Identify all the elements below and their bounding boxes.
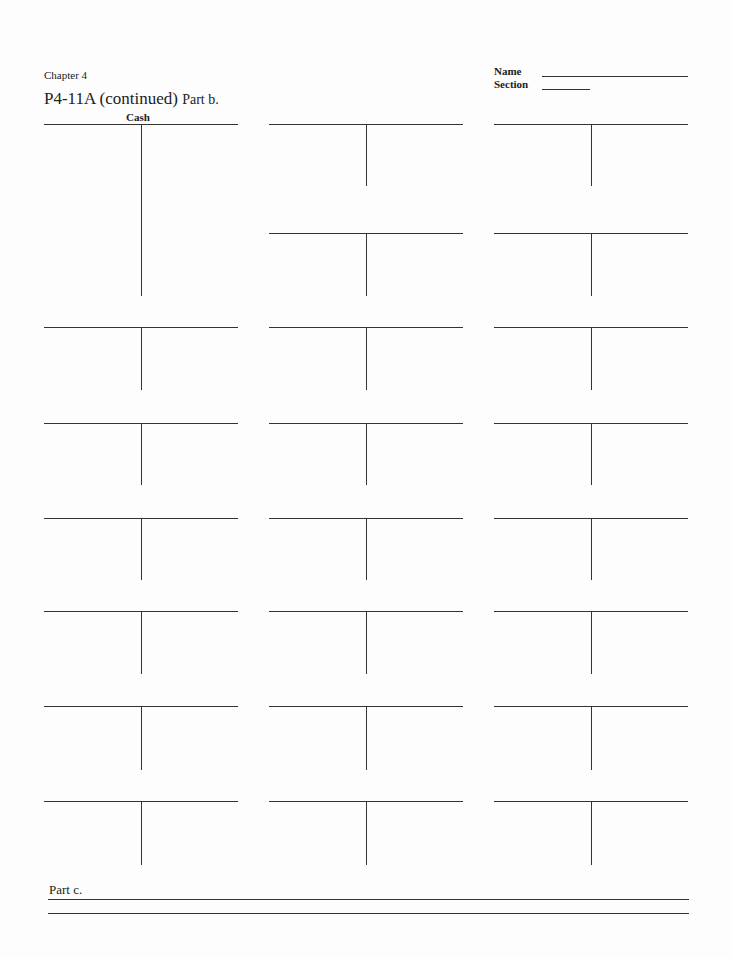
t-account-divider-line [366,423,367,485]
t-account[interactable] [494,327,688,390]
t-account-divider-line [591,518,592,580]
problem-title-part: Part b. [182,92,219,107]
name-label: Name [494,65,522,77]
t-account-divider-line [141,518,142,580]
t-account-divider-line [591,327,592,390]
t-account[interactable] [44,327,238,390]
t-account-divider-line [591,706,592,770]
t-account[interactable] [494,518,688,580]
t-account[interactable] [494,233,688,296]
t-account-divider-line [141,327,142,390]
t-account[interactable] [494,124,688,186]
t-account-divider-line [141,423,142,485]
t-account[interactable] [269,611,463,674]
t-account[interactable] [269,801,463,865]
t-account-divider-line [141,124,142,296]
t-account-divider-line [591,124,592,186]
t-account-divider-line [366,706,367,770]
problem-title-main: P4-11A (continued) [44,89,178,108]
t-account-divider-line [366,233,367,296]
t-account[interactable] [44,706,238,770]
t-account-divider-line [141,706,142,770]
t-account[interactable] [269,518,463,580]
t-account-divider-line [366,124,367,186]
t-account-divider-line [141,611,142,674]
part-c-answer-line-1[interactable] [48,899,689,900]
t-account[interactable] [44,611,238,674]
t-account[interactable] [44,801,238,865]
problem-title: P4-11A (continued) Part b. [44,89,219,109]
t-account-divider-line [591,801,592,865]
t-account-divider-line [591,611,592,674]
t-account[interactable] [269,124,463,186]
t-account[interactable] [269,233,463,296]
t-account[interactable] [269,706,463,770]
t-account[interactable] [44,518,238,580]
t-account-divider-line [141,801,142,865]
t-account-divider-line [366,518,367,580]
part-c-label: Part c. [49,882,82,898]
chapter-label: Chapter 4 [44,69,87,81]
t-account[interactable] [44,423,238,485]
t-account-divider-line [591,423,592,485]
t-account-divider-line [366,611,367,674]
t-account[interactable] [494,706,688,770]
section-label: Section [494,78,528,90]
t-account[interactable] [494,423,688,485]
t-account[interactable] [44,124,238,296]
t-account[interactable] [494,611,688,674]
t-account[interactable] [269,327,463,390]
section-field[interactable] [542,89,590,90]
t-account[interactable] [269,423,463,485]
t-account-divider-line [366,801,367,865]
part-c-answer-line-2[interactable] [48,913,689,914]
cash-account-label: Cash [126,111,150,123]
name-field[interactable] [542,76,688,77]
t-account[interactable] [494,801,688,865]
t-account-divider-line [591,233,592,296]
t-account-divider-line [366,327,367,390]
